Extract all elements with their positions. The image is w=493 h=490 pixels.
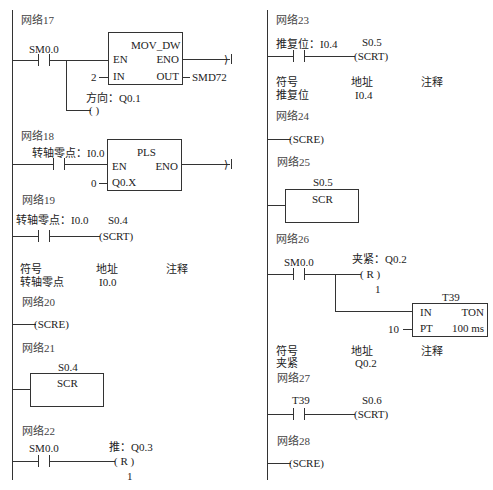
scrt-coil-icon: (SCRT) [354, 50, 388, 62]
address-cell: Q0.2 [355, 357, 377, 369]
symbol-cell: 夹紧 [276, 357, 298, 369]
comment-header: 注释 [421, 76, 443, 88]
in-pin: IN [420, 306, 432, 318]
eno-wire [182, 164, 230, 165]
rung-end-bar [231, 159, 232, 169]
rung-wire [50, 461, 115, 462]
contact-label: 转轴零点：I0.0 [32, 147, 104, 159]
in-wire [99, 77, 108, 78]
rung-wire [50, 60, 108, 61]
branch-wire [335, 274, 336, 311]
rung-wire [305, 274, 361, 275]
network-20-title: 网络20 [22, 296, 55, 308]
comment-header: 注释 [166, 263, 188, 275]
network-17-title: 网络17 [21, 14, 54, 26]
scr-address: S0.5 [313, 176, 333, 188]
coil-address: S0.5 [362, 36, 382, 48]
no-contact-icon [38, 455, 50, 467]
out-pin: OUT [156, 70, 179, 82]
block-name: MOV_DW [131, 39, 181, 51]
rung-wire [50, 236, 100, 237]
rung-wire [305, 56, 355, 57]
q-value: 0 [91, 177, 97, 189]
address-cell: I0.0 [99, 276, 116, 288]
no-contact-icon [38, 54, 50, 66]
block-name: SCR [312, 193, 333, 205]
coil-label: 方向：Q0.1 [86, 92, 141, 104]
network-19-title: 网络19 [22, 194, 55, 206]
ton-timer-block: IN TON PT 100 ms [412, 303, 488, 337]
eno-pin: ENO [156, 53, 179, 65]
q-wire [99, 183, 107, 184]
scr-block: SCR [285, 189, 359, 223]
branch-wire [66, 110, 91, 111]
timer-type: TON [462, 306, 484, 318]
contact-label: SM0.0 [29, 442, 59, 454]
comment-header: 注释 [421, 345, 443, 357]
reset-coil-icon: ( R ) [360, 268, 380, 280]
reset-count: 1 [375, 283, 381, 295]
mov-dw-block: MOV_DW EN ENO IN OUT [108, 32, 183, 85]
scrt-coil-icon: (SCRT) [354, 408, 388, 420]
coil-label: 夹紧：Q0.2 [352, 253, 407, 265]
reset-coil-icon: ( R ) [114, 455, 134, 467]
contact-label: SM0.0 [284, 256, 314, 268]
network-25-title: 网络25 [277, 156, 310, 168]
symbol-header: 符号 [276, 345, 298, 357]
no-contact-icon [293, 268, 305, 280]
rung-wire [267, 139, 291, 140]
en-pin: EN [112, 160, 127, 172]
reset-count: 1 [127, 470, 133, 482]
contact-label: T39 [292, 394, 310, 406]
coil-address: S0.6 [362, 394, 382, 406]
out-value: SMD72 [192, 71, 227, 83]
rung-wire [267, 414, 293, 415]
timer-name: T39 [442, 291, 460, 303]
coil-address: S0.4 [108, 214, 128, 226]
rung-wire [267, 463, 291, 464]
contact-label: 推复位：I0.4 [276, 38, 337, 50]
rung-wire [12, 324, 36, 325]
block-name: PLS [137, 146, 156, 158]
rung-wire [305, 414, 355, 415]
rung-wire [267, 205, 285, 206]
left-power-rail [12, 10, 13, 480]
no-contact-icon [293, 408, 305, 420]
rung-wire [12, 60, 38, 61]
network-21-title: 网络21 [22, 342, 55, 354]
network-22-title: 网络22 [22, 425, 55, 437]
scr-address: S0.4 [58, 361, 78, 373]
address-cell: I0.4 [355, 89, 372, 101]
no-contact-icon [53, 158, 65, 170]
scre-coil-icon: (SCRE) [34, 318, 69, 330]
network-28-title: 网络28 [277, 435, 310, 447]
block-name: SCR [57, 377, 78, 389]
rung-wire [12, 236, 38, 237]
branch-wire [335, 311, 412, 312]
network-24-title: 网络24 [276, 110, 309, 122]
pt-value: 10 [388, 323, 399, 335]
rung-wire [65, 164, 107, 165]
rung-wire [12, 389, 30, 390]
network-27-title: 网络27 [277, 372, 310, 384]
scre-coil-icon: (SCRE) [289, 133, 324, 145]
address-header: 地址 [351, 76, 373, 88]
rung-end-bar [231, 54, 232, 64]
coil-label: 推：Q0.3 [109, 441, 153, 453]
coil-icon: ( ) [89, 104, 99, 116]
rung-end-arrow-icon: ⟩ [224, 159, 228, 169]
en-pin: EN [113, 53, 128, 65]
pt-wire [403, 329, 412, 330]
branch-wire [66, 60, 67, 110]
scrt-coil-icon: (SCRT) [99, 230, 133, 242]
symbol-cell: 推复位 [276, 89, 309, 101]
no-contact-icon [293, 50, 305, 62]
address-header: 地址 [96, 263, 118, 275]
in-value: 2 [91, 71, 97, 83]
symbol-cell: 转轴零点 [20, 276, 64, 288]
rung-wire [267, 56, 293, 57]
scre-coil-icon: (SCRE) [289, 457, 324, 469]
time-base: 100 ms [452, 322, 484, 334]
network-23-title: 网络23 [276, 14, 309, 26]
out-wire [183, 77, 190, 78]
